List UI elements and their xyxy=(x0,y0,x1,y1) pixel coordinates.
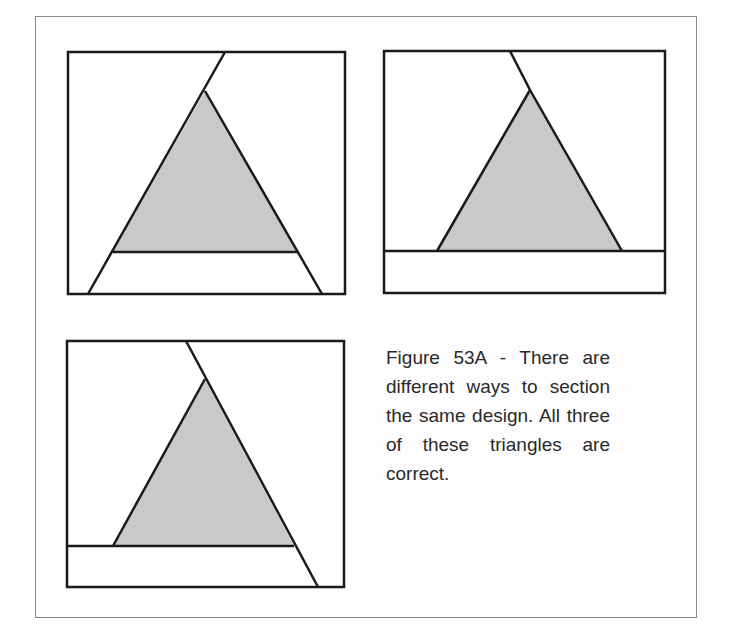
diagram-3 xyxy=(67,341,344,587)
figure-caption: Figure 53A - There are different ways to… xyxy=(386,343,610,488)
figure-diagrams xyxy=(0,0,736,641)
diagram-1 xyxy=(68,52,345,294)
diagram-2 xyxy=(384,51,665,293)
